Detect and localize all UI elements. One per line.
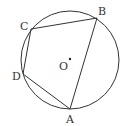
label-b: B <box>98 5 106 18</box>
geometry-diagram: O A B C D <box>0 0 123 126</box>
label-o: O <box>59 60 68 73</box>
label-d: D <box>12 70 21 83</box>
label-c: C <box>20 20 28 33</box>
label-a: A <box>65 113 75 126</box>
center-point-o <box>69 58 71 60</box>
